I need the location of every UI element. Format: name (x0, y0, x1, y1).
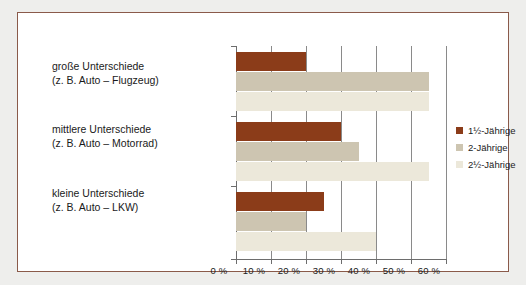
category-label-1-line1: mittlere Unterschiede (52, 122, 158, 136)
legend-swatch-icon-2 (456, 161, 463, 168)
bar-group2-series1 (236, 212, 306, 231)
x-tick-label-10: 10 % (243, 265, 265, 276)
legend-label-1: 2-Jährige (468, 142, 508, 153)
x-tick-label-20: 20 % (278, 265, 300, 276)
chart-figure: große Unterschiede (z. B. Auto – Flugzeu… (0, 0, 526, 285)
legend-label-2: 2½-Jährige (468, 159, 516, 170)
category-label-2-line2: (z. B. Auto – LKW) (52, 200, 144, 214)
category-label-1: mittlere Unterschiede (z. B. Auto – Moto… (52, 122, 158, 150)
x-tick-50 (411, 259, 412, 264)
category-tick-0 (231, 46, 237, 47)
x-tick-20 (306, 259, 307, 264)
category-label-1-line2: (z. B. Auto – Motorrad) (52, 136, 158, 150)
legend-item-1: 2-Jährige (456, 140, 516, 155)
bar-group1-series0 (236, 122, 341, 141)
bar-group2-series0 (236, 192, 324, 211)
x-tick-label-0: 0 % (211, 265, 228, 276)
legend-swatch-icon-0 (456, 127, 463, 134)
x-tick-0 (236, 259, 237, 264)
legend-item-0: 1½-Jährige (456, 123, 516, 138)
legend-swatch-icon-1 (456, 144, 463, 151)
bar-group0-series2 (236, 92, 429, 111)
category-label-2-line1: kleine Unterschiede (52, 186, 144, 200)
category-tick-2 (231, 186, 237, 187)
category-label-0-line1: große Unterschiede (52, 59, 159, 73)
bar-group2-series2 (236, 232, 376, 251)
x-tick-label-30: 30 % (313, 265, 335, 276)
category-label-0-line2: (z. B. Auto – Flugzeug) (52, 73, 159, 87)
legend-label-0: 1½-Jährige (468, 125, 516, 136)
x-tick-60 (446, 259, 447, 264)
category-label-2: kleine Unterschiede (z. B. Auto – LKW) (52, 186, 144, 214)
bar-group0-series0 (236, 52, 306, 71)
bar-group0-series1 (236, 72, 429, 91)
category-label-0: große Unterschiede (z. B. Auto – Flugzeu… (52, 59, 159, 87)
gridline-60 (446, 46, 447, 259)
x-tick-40 (376, 259, 377, 264)
bar-group1-series1 (236, 142, 359, 161)
bar-group1-series2 (236, 162, 429, 181)
category-tick-1 (231, 116, 237, 117)
chart-legend: 1½-Jährige2-Jährige2½-Jährige (456, 123, 516, 174)
x-tick-30 (341, 259, 342, 264)
plot-area (236, 46, 446, 259)
chart-frame: große Unterschiede (z. B. Auto – Flugzeu… (17, 12, 509, 272)
legend-item-2: 2½-Jährige (456, 157, 516, 172)
x-tick-10 (271, 259, 272, 264)
x-tick-label-40: 40 % (348, 265, 370, 276)
x-tick-label-60: 60 % (418, 265, 440, 276)
x-tick-label-50: 50 % (383, 265, 405, 276)
